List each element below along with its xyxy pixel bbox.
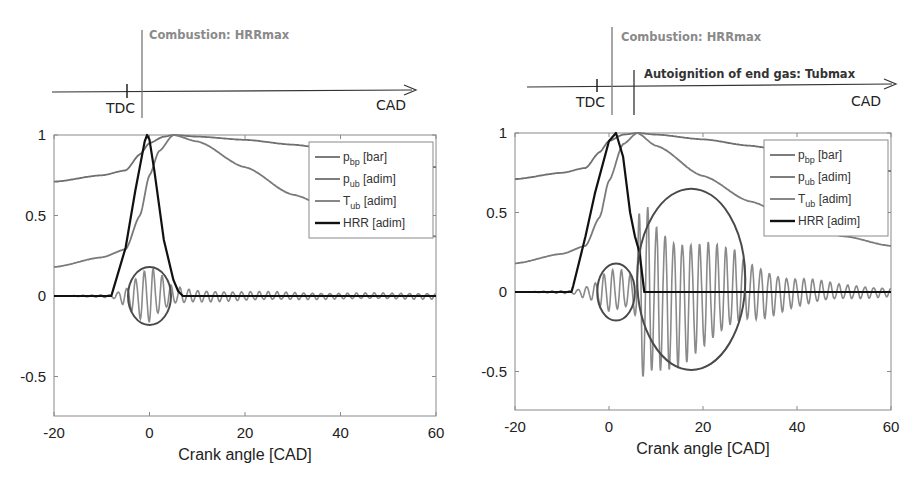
x-axis-label: Crank angle [CAD] <box>636 440 769 457</box>
x-tick-label: 40 <box>332 424 349 441</box>
x-tick-label: 40 <box>789 418 806 435</box>
figure-canvas: TDC CAD Combustion: HRRmax TDC CAD Combu… <box>0 0 914 485</box>
legend: pbp [bar]pub [adim]Tub [adim]HRR [adim] <box>764 140 888 236</box>
plot-right: -200204060-0.500.51Crank angle [CAD]pbp … <box>481 124 899 457</box>
x-tick-label: 20 <box>237 424 254 441</box>
timeline-right: TDC CAD Combustion: HRRmax Autoignition … <box>527 27 896 115</box>
legend-item: HRR [adim] <box>798 214 860 228</box>
y-tick-label: -0.5 <box>20 368 46 385</box>
y-tick-label: 0 <box>499 283 507 300</box>
combustion-label: Combustion: HRRmax <box>149 28 290 42</box>
y-tick-label: 1 <box>499 124 507 141</box>
annotation-ellipse <box>597 263 635 320</box>
legend: pbp [bar]pub [adim]Tub [adim]HRR [adim] <box>309 142 433 238</box>
x-tick-label: 0 <box>145 424 153 441</box>
y-tick-label: 0 <box>38 287 46 304</box>
y-tick-label: -0.5 <box>481 363 507 380</box>
timeline-axis <box>52 90 412 92</box>
tdc-label: TDC <box>105 100 135 116</box>
x-tick-label: 60 <box>883 418 900 435</box>
x-tick-label: -20 <box>504 418 526 435</box>
x-tick-label: 0 <box>605 418 613 435</box>
x-tick-label: -20 <box>43 424 65 441</box>
cad-label: CAD <box>851 93 881 109</box>
y-tick-label: 0.5 <box>486 204 507 221</box>
y-tick-label: 1 <box>38 126 46 143</box>
timeline-axis <box>527 84 892 87</box>
annotation-ellipse <box>637 189 745 370</box>
legend-item: HRR [adim] <box>343 216 405 230</box>
cad-label: CAD <box>376 97 406 113</box>
x-tick-label: 60 <box>428 424 445 441</box>
x-tick-label: 20 <box>695 418 712 435</box>
y-tick-label: 0.5 <box>25 207 46 224</box>
timeline-left: TDC CAD Combustion: HRRmax <box>52 28 416 118</box>
x-axis-label: Crank angle [CAD] <box>178 446 311 463</box>
autoignition-label: Autoignition of end gas: Tubmax <box>644 67 856 81</box>
tdc-label: TDC <box>575 94 605 110</box>
combustion-label: Combustion: HRRmax <box>621 30 762 44</box>
plot-left: -200204060-0.500.51Crank angle [CAD]pbp … <box>20 126 444 463</box>
